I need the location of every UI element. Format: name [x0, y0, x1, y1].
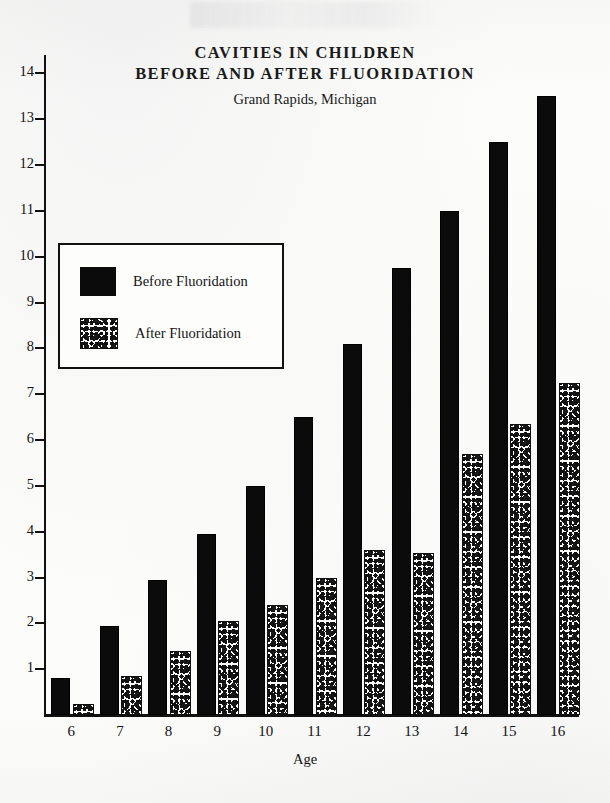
- bar-after-fluoridation: [413, 553, 434, 715]
- y-axis-tick: [35, 393, 44, 395]
- bar-before-fluoridation: [440, 211, 459, 715]
- bar-before-fluoridation: [51, 678, 70, 715]
- y-axis-line: [44, 55, 46, 715]
- x-axis-tick-label: 6: [49, 723, 93, 740]
- legend-label-after: After Fluoridation: [135, 325, 241, 342]
- x-axis-title: Age: [0, 751, 610, 768]
- x-axis-tick-label: 15: [487, 723, 531, 740]
- x-axis-tick-label: 7: [98, 723, 142, 740]
- bar-before-fluoridation: [100, 626, 119, 715]
- y-axis-tick: [35, 485, 44, 487]
- x-axis-tick-label: 11: [293, 723, 337, 740]
- y-axis-tick: [35, 531, 44, 533]
- bar-before-fluoridation: [294, 417, 313, 715]
- bar-after-fluoridation: [73, 704, 94, 715]
- y-axis-tick: [35, 164, 44, 166]
- y-axis-tick-label: 2: [8, 613, 34, 630]
- bar-after-fluoridation: [170, 651, 191, 715]
- x-axis-tick-label: 16: [536, 723, 580, 740]
- chart-page: CAVITIES IN CHILDREN BEFORE AND AFTER FL…: [0, 0, 610, 803]
- y-axis-tick-label: 3: [8, 568, 34, 585]
- legend-box: Before Fluoridation After Fluoridation: [58, 243, 284, 369]
- x-axis-tick-label: 9: [195, 723, 239, 740]
- bar-after-fluoridation: [267, 605, 288, 715]
- y-axis-tick: [35, 577, 44, 579]
- bar-after-fluoridation: [121, 676, 142, 715]
- y-axis-tick: [35, 302, 44, 304]
- x-axis-tick-label: 10: [244, 723, 288, 740]
- y-axis-tick: [35, 439, 44, 441]
- plot-area: [44, 55, 579, 715]
- bar-after-fluoridation: [218, 621, 239, 715]
- y-axis-tick-label: 14: [8, 63, 34, 80]
- y-axis-tick-label: 10: [8, 247, 34, 264]
- x-axis-tick-label: 14: [438, 723, 482, 740]
- y-axis-tick-label: 8: [8, 338, 34, 355]
- y-axis-tick: [35, 72, 44, 74]
- bar-after-fluoridation: [462, 454, 483, 715]
- bar-before-fluoridation: [148, 580, 167, 715]
- y-axis-tick: [35, 256, 44, 258]
- bar-after-fluoridation: [510, 424, 531, 715]
- bar-before-fluoridation: [392, 268, 411, 715]
- bar-before-fluoridation: [489, 142, 508, 715]
- y-axis-tick-label: 9: [8, 293, 34, 310]
- x-axis-tick-label: 8: [147, 723, 191, 740]
- y-axis-tick: [35, 668, 44, 670]
- bar-before-fluoridation: [197, 534, 216, 715]
- bar-before-fluoridation: [246, 486, 265, 715]
- y-axis-tick: [35, 210, 44, 212]
- legend-item-after: After Fluoridation: [80, 318, 241, 349]
- y-axis-tick: [35, 622, 44, 624]
- legend-label-before: Before Fluoridation: [133, 273, 248, 290]
- x-axis-tick-label: 12: [341, 723, 385, 740]
- y-axis-tick-label: 1: [8, 659, 34, 676]
- y-axis-tick-label: 6: [8, 430, 34, 447]
- legend-swatch-stipple-icon: [80, 318, 118, 349]
- x-axis-tick-label: 13: [390, 723, 434, 740]
- bar-after-fluoridation: [559, 383, 580, 715]
- y-axis-tick: [35, 118, 44, 120]
- bar-after-fluoridation: [316, 578, 337, 715]
- legend-swatch-solid-icon: [80, 267, 116, 296]
- y-axis-tick-label: 13: [8, 109, 34, 126]
- y-axis-tick-label: 12: [8, 155, 34, 172]
- y-axis-tick: [35, 347, 44, 349]
- legend-item-before: Before Fluoridation: [80, 267, 248, 296]
- bar-before-fluoridation: [343, 344, 362, 715]
- y-axis-tick-label: 5: [8, 476, 34, 493]
- y-axis-tick-label: 7: [8, 384, 34, 401]
- y-axis-tick-label: 11: [8, 201, 34, 218]
- bar-after-fluoridation: [364, 550, 385, 715]
- scan-artifact: [190, 2, 440, 28]
- bar-before-fluoridation: [537, 96, 556, 715]
- y-axis-tick-label: 4: [8, 522, 34, 539]
